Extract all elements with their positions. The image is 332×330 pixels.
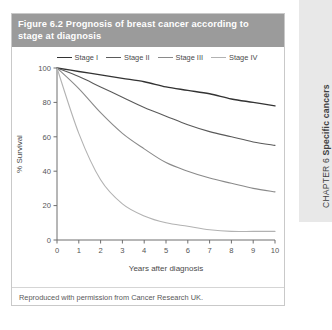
chapter-title: Specific cancers <box>321 84 331 155</box>
chart-legend: Stage I Stage II Stage III Stage IV <box>12 53 284 62</box>
x-tick-label: 7 <box>207 246 211 255</box>
y-tick-label: 100 <box>38 64 51 73</box>
figure-source-note: Reproduced with permission from Cancer R… <box>12 287 284 305</box>
x-tick-label: 5 <box>164 246 168 255</box>
y-tick-label: 20 <box>43 202 51 211</box>
series-line-stage-iv <box>57 68 275 232</box>
x-tick-label: 8 <box>229 246 233 255</box>
legend-label: Stage III <box>176 53 204 62</box>
y-tick-label: 0 <box>47 236 51 245</box>
legend-item-stage-3[interactable]: Stage III <box>158 53 204 62</box>
legend-line-icon <box>158 57 173 58</box>
chapter-prefix: CHAPTER 6 <box>321 155 331 208</box>
figure-title-banner: Figure 6.2 Prognosis of breast cancer ac… <box>12 14 284 47</box>
figure-number: Figure 6.2 <box>18 19 63 29</box>
legend-line-icon <box>106 57 121 58</box>
series-line-stage-ii <box>57 68 275 145</box>
figure-container: Figure 6.2 Prognosis of breast cancer ac… <box>11 13 285 306</box>
x-axis-label: Years after diagnosis <box>129 264 203 273</box>
legend-label: Stage IV <box>229 53 257 62</box>
chapter-tab-label: CHAPTER 6 Specific cancers <box>321 84 331 208</box>
legend-line-icon <box>57 57 72 58</box>
legend-label: Stage I <box>75 53 98 62</box>
legend-line-icon <box>211 57 226 58</box>
legend-item-stage-4[interactable]: Stage IV <box>211 53 257 62</box>
x-tick-label: 1 <box>77 246 81 255</box>
legend-label: Stage II <box>124 53 149 62</box>
x-tick-label: 0 <box>55 246 59 255</box>
survival-curves-chart: 020406080100012345678910Years after diag… <box>12 62 284 284</box>
x-tick-label: 6 <box>186 246 190 255</box>
y-tick-label: 80 <box>43 99 51 108</box>
legend-item-stage-2[interactable]: Stage II <box>106 53 149 62</box>
y-axis-label: % Survival <box>15 135 24 173</box>
chapter-tab: CHAPTER 6 Specific cancers <box>299 0 332 222</box>
x-tick-label: 3 <box>120 246 124 255</box>
legend-item-stage-1[interactable]: Stage I <box>57 53 98 62</box>
x-tick-label: 9 <box>251 246 255 255</box>
y-tick-label: 60 <box>43 133 51 142</box>
y-tick-label: 40 <box>43 167 51 176</box>
plot-area: 020406080100012345678910Years after diag… <box>12 62 284 284</box>
x-tick-label: 10 <box>271 246 279 255</box>
x-tick-label: 4 <box>142 246 146 255</box>
x-tick-label: 2 <box>98 246 102 255</box>
